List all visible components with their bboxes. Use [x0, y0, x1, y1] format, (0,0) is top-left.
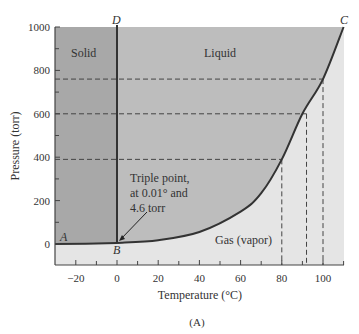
liquid-label: Liquid: [204, 46, 236, 60]
x-tick-label: 20: [153, 272, 165, 284]
triple-point-annotation: 4.6 torr: [130, 201, 165, 215]
x-axis-label: Temperature (°C): [158, 288, 242, 302]
y-tick-label: 600: [34, 108, 51, 120]
point-label-b: B: [113, 243, 121, 257]
x-tick-label: 100: [315, 272, 332, 284]
x-tick-label: 60: [235, 272, 247, 284]
y-tick-label: 200: [34, 195, 51, 207]
y-tick-label: 400: [34, 151, 51, 163]
x-tick-label: 0: [114, 272, 120, 284]
y-tick-label: 800: [34, 64, 51, 76]
x-tick-label: −20: [67, 272, 85, 284]
x-tick-label: 80: [276, 272, 288, 284]
solid-label: Solid: [71, 46, 96, 60]
triple-point-annotation: at 0.01° and: [130, 186, 188, 200]
phase-diagram-svg: 02004006008001000−20020406080100Temperat…: [0, 0, 359, 334]
figure-caption: (A): [189, 316, 205, 329]
triple-point-annotation: Triple point,: [130, 171, 190, 185]
point-label-a: A: [59, 230, 68, 244]
gas-label: Gas (vapor): [215, 233, 272, 247]
phase-diagram: 02004006008001000−20020406080100Temperat…: [0, 0, 359, 334]
y-tick-label: 1000: [28, 21, 51, 33]
y-tick-label: 0: [45, 238, 51, 250]
y-axis-label: Pressure (torr): [8, 112, 22, 181]
point-label-d: D: [111, 13, 121, 27]
x-tick-label: 40: [194, 272, 206, 284]
point-label-c: C: [340, 13, 349, 27]
